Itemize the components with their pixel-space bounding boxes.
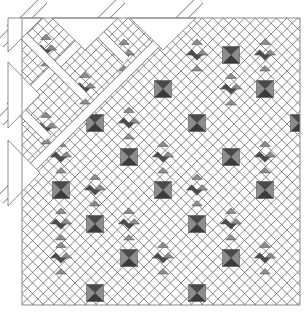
hourglass-square — [257, 182, 274, 199]
hourglass-square — [155, 182, 172, 199]
quilt-canvas — [0, 0, 305, 314]
hourglass-square — [189, 216, 206, 233]
hourglass-square — [189, 285, 206, 302]
hourglass-square — [87, 285, 104, 302]
hourglass-square — [121, 250, 138, 267]
hourglass-square — [257, 81, 274, 98]
hourglass-square — [121, 149, 138, 166]
hourglass-square — [223, 47, 240, 64]
hourglass-square — [223, 149, 240, 166]
hourglass-square — [223, 250, 240, 267]
hourglass-square — [155, 81, 172, 98]
quilt-diagram: Quilt layout diagram — [0, 0, 305, 314]
hourglass-square — [53, 182, 70, 199]
hourglass-square — [87, 216, 104, 233]
hourglass-square — [189, 115, 206, 132]
